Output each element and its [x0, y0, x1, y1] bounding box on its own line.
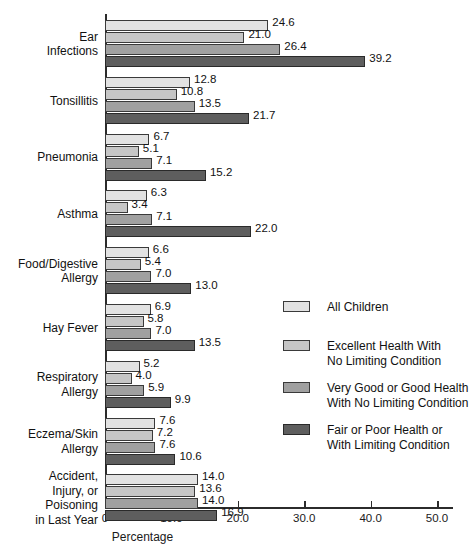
bar — [105, 158, 152, 169]
x-axis-title: Percentage — [0, 530, 475, 544]
bar — [105, 226, 251, 237]
category-label: Respiratory Allergy — [37, 370, 98, 399]
category-label: Pneumonia — [37, 150, 98, 165]
legend-item[interactable]: Very Good or Good Health With No Limitin… — [283, 381, 471, 410]
bar — [105, 316, 144, 327]
bar — [105, 77, 190, 88]
bar — [105, 373, 132, 384]
category-label: Eczema/Skin Allergy — [28, 427, 98, 456]
legend-label: Fair or Poor Health or With Limiting Con… — [327, 423, 471, 452]
bar-value-label: 21.7 — [253, 110, 275, 121]
bar-value-label: 7.2 — [157, 427, 173, 438]
bar — [105, 510, 217, 521]
legend-label: Excellent Health With No Limiting Condit… — [327, 339, 471, 368]
plot-area: 010.020.030.040.050.0 Ear InfectionsTons… — [0, 0, 475, 554]
x-axis-title-text: Percentage — [112, 530, 173, 544]
bar-value-label: 39.2 — [369, 53, 391, 64]
bar — [105, 170, 206, 181]
bar — [105, 474, 198, 485]
chart-legend: All ChildrenExcellent Health With No Lim… — [283, 300, 471, 465]
bar — [105, 20, 268, 31]
bar-value-label: 6.6 — [153, 244, 169, 255]
bar-value-label: 6.3 — [151, 187, 167, 198]
bar — [105, 328, 151, 339]
bar-chart: 010.020.030.040.050.0 Ear InfectionsTons… — [0, 0, 475, 554]
bar-value-label: 13.5 — [199, 337, 221, 348]
bar — [105, 202, 128, 213]
bar-value-label: 16.9 — [221, 507, 243, 518]
bar-value-label: 5.1 — [143, 143, 159, 154]
bar — [105, 113, 249, 124]
bar-value-label: 14.0 — [202, 471, 224, 482]
bar-value-label: 10.6 — [179, 451, 201, 462]
category-label: Ear Infections — [47, 30, 98, 59]
bar — [105, 385, 144, 396]
bar-value-label: 4.0 — [136, 370, 152, 381]
bar — [105, 44, 280, 55]
bar — [105, 304, 151, 315]
bar — [105, 214, 152, 225]
bar-value-label: 5.4 — [145, 256, 161, 267]
bar-value-label: 7.0 — [155, 268, 171, 279]
legend-label: All Children — [327, 300, 471, 315]
bar — [105, 486, 195, 497]
bar-value-label: 10.8 — [181, 86, 203, 97]
legend-swatch-icon — [283, 340, 310, 351]
bar-value-label: 6.9 — [155, 301, 171, 312]
bar-value-label: 13.0 — [195, 280, 217, 291]
bar — [105, 442, 155, 453]
x-tick-label: 30.0 — [293, 512, 315, 524]
bar-value-label: 14.0 — [202, 495, 224, 506]
x-tick-mark — [437, 501, 439, 508]
bar — [105, 361, 140, 372]
category-label: Tonsillitis — [50, 94, 98, 109]
bar-value-label: 7.1 — [156, 211, 172, 222]
category-label: Asthma — [57, 207, 98, 222]
legend-item[interactable]: Fair or Poor Health or With Limiting Con… — [283, 423, 471, 452]
bar — [105, 32, 244, 43]
bar — [105, 498, 198, 509]
legend-item[interactable]: Excellent Health With No Limiting Condit… — [283, 339, 471, 368]
bar — [105, 340, 195, 351]
bar — [105, 271, 151, 282]
x-tick-mark — [371, 501, 373, 508]
bar — [105, 146, 139, 157]
bar — [105, 283, 191, 294]
bar-value-label: 5.8 — [148, 313, 164, 324]
x-tick-mark — [304, 501, 306, 508]
bar — [105, 418, 155, 429]
bar-value-label: 13.6 — [199, 483, 221, 494]
bar-value-label: 22.0 — [255, 223, 277, 234]
bar-value-label: 9.9 — [175, 394, 191, 405]
x-tick-label: 40.0 — [359, 512, 381, 524]
bar-value-label: 15.2 — [210, 167, 232, 178]
bar — [105, 430, 153, 441]
legend-label: Very Good or Good Health With No Limitin… — [327, 381, 471, 410]
category-label: Food/Digestive Allergy — [18, 257, 98, 286]
legend-swatch-icon — [283, 424, 310, 435]
bar — [105, 89, 177, 100]
bar-value-label: 7.1 — [156, 155, 172, 166]
bar — [105, 56, 365, 67]
bar-value-label: 12.8 — [194, 74, 216, 85]
legend-item[interactable]: All Children — [283, 300, 471, 326]
bar — [105, 454, 175, 465]
category-label: Hay Fever — [43, 321, 98, 336]
bar — [105, 101, 195, 112]
bar — [105, 259, 141, 270]
bar-value-label: 3.4 — [132, 199, 148, 210]
bar-value-label: 5.2 — [144, 358, 160, 369]
bar-value-label: 24.6 — [272, 17, 294, 28]
bar-value-label: 21.0 — [248, 29, 270, 40]
bar-value-label: 26.4 — [284, 41, 306, 52]
bar — [105, 397, 171, 408]
bar-value-label: 7.6 — [159, 439, 175, 450]
category-label: Accident, Injury, or Poisoning in Last Y… — [35, 469, 98, 527]
bar-value-label: 7.6 — [159, 415, 175, 426]
x-tick-label: 50.0 — [426, 512, 448, 524]
bar-value-label: 6.7 — [153, 131, 169, 142]
bar — [105, 247, 149, 258]
bar-value-label: 7.0 — [155, 325, 171, 336]
bar-value-label: 5.9 — [148, 382, 164, 393]
legend-swatch-icon — [283, 382, 310, 393]
